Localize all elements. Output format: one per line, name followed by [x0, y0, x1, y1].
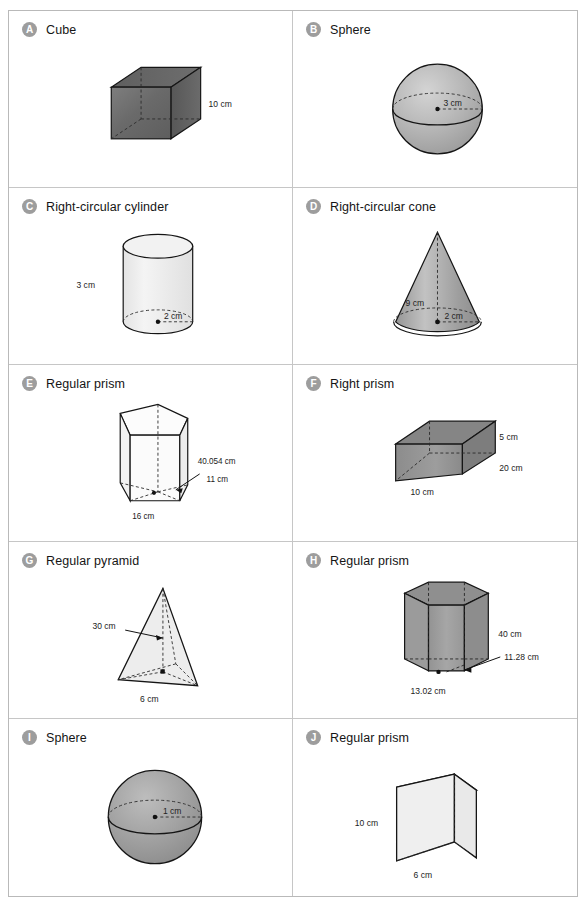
figure-triangular-prism: 10 cm 6 cm	[293, 745, 577, 895]
cell-header-d: D Right-circular cone	[306, 199, 436, 214]
cell-badge-f: F	[306, 376, 321, 391]
cell-header-f: F Right prism	[306, 376, 394, 391]
cell-title-d: Right-circular cone	[330, 200, 436, 214]
cell-header-h: H Regular prism	[306, 553, 409, 568]
dim-label: 3 cm	[443, 98, 462, 108]
dim-label: 40.054 cm	[198, 457, 236, 466]
cell-header-e: E Regular prism	[22, 376, 125, 391]
cell-badge-a: A	[22, 22, 37, 37]
dim-label: 2 cm	[444, 311, 463, 321]
dim-label: 1 cm	[163, 806, 181, 816]
figure-cylinder: 3 cm 2 cm	[9, 214, 292, 364]
figure-sphere-b: 3 cm	[293, 37, 577, 187]
dim-label: 6 cm	[414, 870, 433, 880]
dim-label: 2 cm	[164, 311, 182, 321]
cell-header-g: G Regular pyramid	[22, 553, 139, 568]
cell-title-i: Sphere	[46, 731, 87, 745]
dim-label: 16 cm	[132, 512, 154, 521]
cell-title-b: Sphere	[330, 23, 371, 37]
cell-title-g: Regular pyramid	[46, 554, 139, 568]
dim-label: 11 cm	[207, 475, 229, 484]
dim-label: 11.28 cm	[504, 652, 539, 662]
cell-title-h: Regular prism	[330, 554, 409, 568]
figure-pentagonal-prism: 40.054 cm 11 cm 16 cm	[9, 391, 292, 541]
cell-badge-g: G	[22, 553, 37, 568]
cell-badge-i: I	[22, 730, 37, 745]
cell-badge-j: J	[306, 730, 321, 745]
figure-grid: A Cube	[9, 11, 577, 896]
cell-badge-d: D	[306, 199, 321, 214]
figure-hexagonal-prism: 40 cm 11.28 cm 13.02 cm	[293, 568, 577, 718]
dim-label: 6 cm	[140, 694, 158, 704]
dim-label: 13.02 cm	[411, 686, 446, 696]
figure-cell-g: G Regular pyramid	[9, 542, 293, 719]
cell-header-j: J Regular prism	[306, 730, 409, 745]
cell-title-e: Regular prism	[46, 377, 125, 391]
dim-label: 3 cm	[77, 280, 95, 290]
dim-label: 10 cm	[355, 818, 378, 828]
figure-cell-f: F Right prism	[293, 365, 577, 542]
dim-label: 20 cm	[499, 463, 522, 473]
figure-cell-a: A Cube	[9, 11, 293, 188]
cell-header-c: C Right-circular cylinder	[22, 199, 168, 214]
figure-cell-e: E Regular prism	[9, 365, 293, 542]
cell-badge-b: B	[306, 22, 321, 37]
cell-header-b: B Sphere	[306, 22, 371, 37]
cell-header-a: A Cube	[22, 22, 76, 37]
cell-title-f: Right prism	[330, 377, 394, 391]
cell-title-j: Regular prism	[330, 731, 409, 745]
cell-badge-h: H	[306, 553, 321, 568]
figure-rectangular-prism: 5 cm 20 cm 10 cm	[293, 391, 577, 541]
figure-cell-b: B Sphere 3	[293, 11, 577, 188]
figure-cube: 10 cm	[9, 37, 292, 187]
cell-header-i: I Sphere	[22, 730, 87, 745]
figure-cell-d: D Right-circular cone	[293, 188, 577, 365]
dim-label: 5 cm	[499, 432, 518, 442]
figure-cell-h: H Regular prism	[293, 542, 577, 719]
figure-sheet: A Cube	[8, 10, 578, 897]
dim-label: 10 cm	[411, 487, 434, 497]
cell-title-a: Cube	[46, 23, 76, 37]
figure-triangular-pyramid: 30 cm 6 cm	[9, 568, 292, 718]
dim-label: 9 cm	[406, 298, 425, 308]
figure-cell-c: C Right-circular cylinder	[9, 188, 293, 365]
cell-title-c: Right-circular cylinder	[46, 200, 168, 214]
dim-label: 40 cm	[498, 629, 521, 639]
figure-sphere-i: 1 cm	[9, 745, 292, 895]
figure-cone: 9 cm 2 cm	[293, 214, 577, 364]
figure-cell-i: I Sphere 1	[9, 719, 293, 896]
dim-label: 10 cm	[209, 99, 232, 109]
cell-badge-e: E	[22, 376, 37, 391]
dim-label: 30 cm	[92, 621, 115, 631]
figure-cell-j: J Regular prism 10 cm	[293, 719, 577, 896]
cell-badge-c: C	[22, 199, 37, 214]
